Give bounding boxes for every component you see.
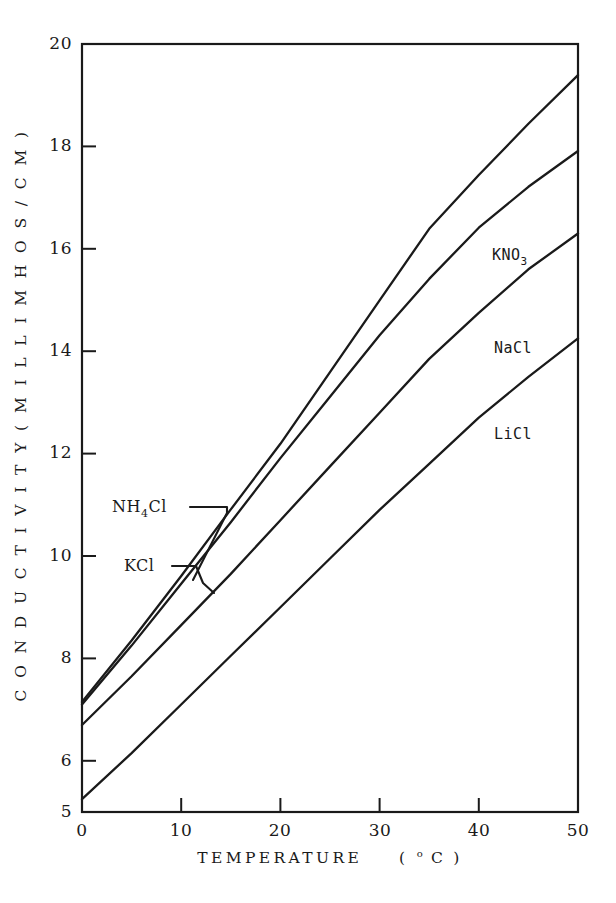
leader-line-nh4cl	[190, 507, 227, 580]
y-tick-label-18: 18	[26, 137, 72, 154]
y-tick-label-16: 16	[26, 240, 72, 257]
x-tick-label-30: 30	[360, 822, 400, 839]
curve-label-kno3: KNO3	[492, 248, 528, 267]
curve-licl	[82, 338, 578, 799]
curve-label-nh4cl: NH4Cl	[112, 499, 167, 519]
y-tick-label-20: 20	[26, 35, 72, 52]
x-axis-unit-celsius: C	[431, 849, 445, 867]
chart-figure: C O N D U C T I V I T Y ( M I L L I M H …	[0, 0, 616, 903]
x-axis-ticks	[82, 798, 578, 812]
x-axis-unit-close-paren: )	[453, 849, 462, 867]
curve-label-nh4cl-suffix: Cl	[148, 497, 166, 516]
x-tick-label-20: 20	[260, 822, 300, 839]
curve-label-licl: LiCl	[494, 427, 532, 442]
y-tick-label-8: 8	[26, 649, 72, 666]
curve-label-kno3-text: KNO	[492, 246, 521, 264]
y-tick-label-6: 6	[26, 752, 72, 769]
x-tick-label-50: 50	[558, 822, 598, 839]
x-axis-title-main: TEMPERATURE	[197, 849, 362, 867]
y-tick-label-14: 14	[26, 342, 72, 359]
x-tick-label-40: 40	[459, 822, 499, 839]
curve-kcl	[82, 75, 578, 702]
x-tick-label-10: 10	[161, 822, 201, 839]
x-axis-title: TEMPERATURE ( o C )	[82, 848, 578, 867]
x-tick-label-0: 0	[62, 822, 102, 839]
y-tick-label-10: 10	[26, 547, 72, 564]
x-axis-unit-open-paren: (	[399, 849, 408, 867]
plot-canvas	[0, 0, 616, 903]
curve-label-kno3-subscript: 3	[521, 255, 528, 268]
y-tick-label-5: 5	[26, 803, 72, 820]
curve-nacl	[82, 234, 578, 726]
y-tick-label-12: 12	[26, 444, 72, 461]
degree-icon: o	[417, 848, 423, 859]
y-axis-ticks	[82, 44, 96, 761]
curve-label-nh4cl-prefix: NH	[112, 497, 141, 516]
curve-label-kcl: KCl	[124, 558, 154, 574]
curve-label-nacl: NaCl	[494, 341, 532, 356]
